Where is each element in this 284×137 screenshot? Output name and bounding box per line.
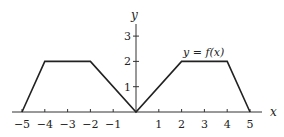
x-tick-label: 2 [178, 118, 185, 131]
x-tick-label: −2 [82, 118, 98, 131]
x-tick-label: 5 [247, 118, 254, 131]
x-tick-label: −3 [59, 118, 75, 131]
x-tick-label: 3 [201, 118, 208, 131]
x-tick-label: −4 [37, 118, 53, 131]
x-tick-label: −1 [105, 118, 121, 131]
x-tick-label: 1 [155, 118, 162, 131]
function-annotation: y = f(x) [182, 46, 224, 59]
x-axis-label: x [270, 105, 277, 119]
function-graph: −5−4−3−2−112345123 x y y = f(x) [0, 0, 284, 137]
y-tick-label: 3 [124, 30, 131, 43]
axes [12, 24, 262, 112]
y-tick-label: 2 [124, 55, 131, 68]
y-tick-label: 1 [124, 81, 131, 94]
x-tick-label: −5 [14, 118, 30, 131]
y-axis-label: y [130, 8, 138, 22]
x-tick-label: 4 [224, 118, 231, 131]
